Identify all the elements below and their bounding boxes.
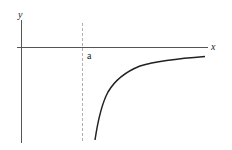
function-curve [95, 57, 205, 141]
function-graph: y x a [0, 0, 232, 150]
x-axis-label: x [210, 41, 216, 52]
asymptote-label: a [87, 50, 92, 61]
y-axis-label: y [17, 9, 23, 20]
